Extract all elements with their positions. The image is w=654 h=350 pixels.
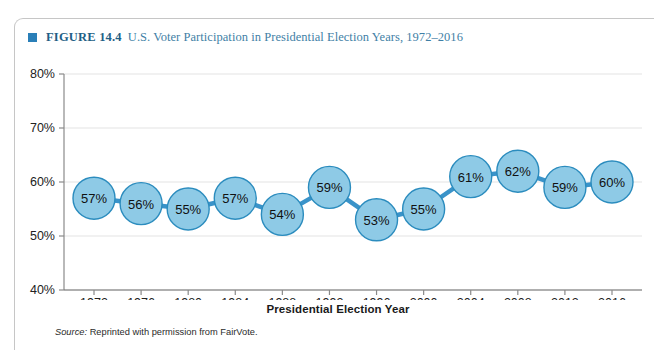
data-point-bubble: 62% <box>497 150 539 192</box>
figure-header: FIGURE 14.4 U.S. Voter Participation in … <box>28 29 463 45</box>
x-tick-label: 2004 <box>457 296 485 300</box>
y-axis-ticks <box>59 74 64 290</box>
chart-svg: 40%50%60%70%80% 197219761980198419881992… <box>14 60 654 300</box>
data-point-label: 55% <box>175 202 201 217</box>
data-point-bubble: 57% <box>214 177 256 219</box>
x-tick-label: 2000 <box>410 296 438 300</box>
x-axis-title-text: Presidential Election Year <box>266 303 409 315</box>
data-point-label: 60% <box>599 175 625 190</box>
data-point-bubble: 61% <box>450 156 492 198</box>
y-tick-label: 80% <box>30 67 55 81</box>
x-axis-tick-labels: 1972197619801984198819921996200020042008… <box>80 296 626 300</box>
voter-participation-chart: 40%50%60%70%80% 197219761980198419881992… <box>14 60 654 300</box>
y-axis-tick-labels: 40%50%60%70%80% <box>30 67 55 297</box>
x-tick-label: 1980 <box>174 296 202 300</box>
data-point-label: 62% <box>505 164 531 179</box>
data-point-bubble: 55% <box>403 188 445 230</box>
data-point-bubble: 54% <box>261 193 303 235</box>
y-tick-label: 50% <box>30 229 55 243</box>
data-point-bubble: 55% <box>167 188 209 230</box>
data-point-bubbles: 57%56%55%57%54%59%53%55%61%62%59%60% <box>73 150 633 241</box>
figure-title: U.S. Voter Participation in Presidential… <box>128 30 463 45</box>
data-point-label: 57% <box>222 191 248 206</box>
x-tick-label: 1996 <box>363 296 391 300</box>
square-bullet-icon <box>28 33 37 42</box>
data-point-label: 59% <box>552 180 578 195</box>
x-tick-label: 2008 <box>504 296 532 300</box>
x-tick-label: 1976 <box>127 296 155 300</box>
data-point-bubble: 57% <box>73 177 115 219</box>
data-point-bubble: 59% <box>544 166 586 208</box>
x-tick-label: 1992 <box>316 296 344 300</box>
x-tick-label: 1984 <box>221 296 249 300</box>
x-axis-ticks <box>94 290 612 295</box>
y-tick-label: 60% <box>30 175 55 189</box>
source-text: Reprinted with permission from FairVote. <box>90 327 258 337</box>
data-point-label: 57% <box>81 191 107 206</box>
data-point-bubble: 56% <box>120 183 162 225</box>
x-tick-label: 1988 <box>268 296 296 300</box>
data-point-label: 59% <box>316 180 342 195</box>
source-label: Source: <box>55 327 87 337</box>
figure-number: FIGURE 14.4 <box>46 30 122 45</box>
x-tick-label: 2016 <box>598 296 626 300</box>
y-tick-label: 70% <box>30 121 55 135</box>
data-point-bubble: 59% <box>308 166 350 208</box>
data-point-label: 55% <box>411 202 437 217</box>
x-tick-label: 1972 <box>80 296 108 300</box>
source-note: Source: Reprinted with permission from F… <box>55 327 258 337</box>
data-point-label: 54% <box>269 207 295 222</box>
x-tick-label: 2012 <box>551 296 579 300</box>
page-bleed-text <box>42 0 302 5</box>
y-tick-label: 40% <box>30 283 55 297</box>
data-point-bubble: 53% <box>356 199 398 241</box>
data-point-label: 53% <box>364 213 390 228</box>
data-point-bubble: 60% <box>591 161 633 203</box>
data-point-label: 61% <box>458 170 484 185</box>
x-axis-title: Presidential Election Year <box>0 303 654 315</box>
data-point-label: 56% <box>128 197 154 212</box>
